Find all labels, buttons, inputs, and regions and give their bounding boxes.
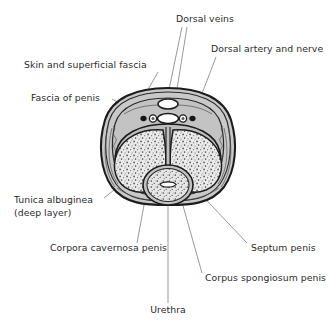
label-fascia-of-penis: Fascia of penis [31, 92, 100, 103]
figure-page: Dorsal veins Dorsal artery and nerve Ski… [0, 0, 336, 326]
label-corpus-spongiosum-penis: Corpus spongiosum penis [205, 272, 326, 283]
label-dorsal-veins: Dorsal veins [176, 13, 234, 24]
dorsal-nerve-right [189, 116, 195, 121]
dorsal-artery-left-lumen [152, 117, 155, 120]
urethra-shape [160, 182, 176, 187]
deep-dorsal-vein [158, 114, 179, 124]
label-skin-and-superficial-fascia: Skin and superficial fascia [24, 59, 147, 70]
label-urethra: Urethra [150, 304, 186, 315]
label-corpora-cavernosa-penis: Corpora cavernosa penis [50, 242, 167, 253]
dorsal-artery-right-lumen [182, 117, 185, 120]
label-dorsal-artery-and-nerve: Dorsal artery and nerve [211, 43, 323, 54]
penis-cross-section-figure: Dorsal veins Dorsal artery and nerve Ski… [0, 0, 336, 326]
dorsal-nerve-left [140, 116, 146, 121]
cross-section-drawing [101, 88, 235, 205]
superficial-dorsal-vein [158, 99, 178, 109]
label-tunica-albuginea: Tunica albuginea [13, 194, 93, 205]
label-tunica-albuginea-deep-layer: (deep layer) [14, 207, 71, 218]
label-septum-penis: Septum penis [251, 242, 316, 253]
